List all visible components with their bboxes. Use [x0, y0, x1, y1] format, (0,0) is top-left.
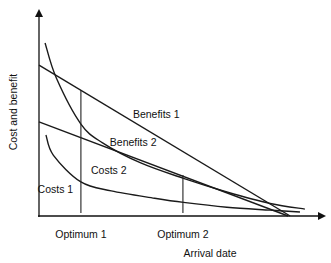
x-axis-label: Arrival date	[183, 247, 236, 259]
label-benefits-2: Benefits 2	[110, 136, 157, 148]
cost-benefit-diagram: Optimum 1Optimum 2 Benefits 1Benefits 2C…	[0, 0, 331, 263]
series-layer	[39, 43, 305, 216]
y-axis-label: Cost and benefit	[7, 74, 19, 151]
label-benefits-1: Benefits 1	[133, 108, 180, 120]
series-benefits-2	[39, 122, 288, 216]
series-costs-1	[46, 135, 300, 212]
series-benefits-1	[39, 65, 290, 216]
label-layer: Benefits 1Benefits 2Costs 2Costs 1	[38, 108, 180, 195]
label-costs-1: Costs 1	[38, 183, 74, 195]
optimum-1-label: Optimum 1	[55, 228, 107, 240]
label-costs-2: Costs 2	[91, 164, 127, 176]
optimum-2-label: Optimum 2	[157, 228, 209, 240]
